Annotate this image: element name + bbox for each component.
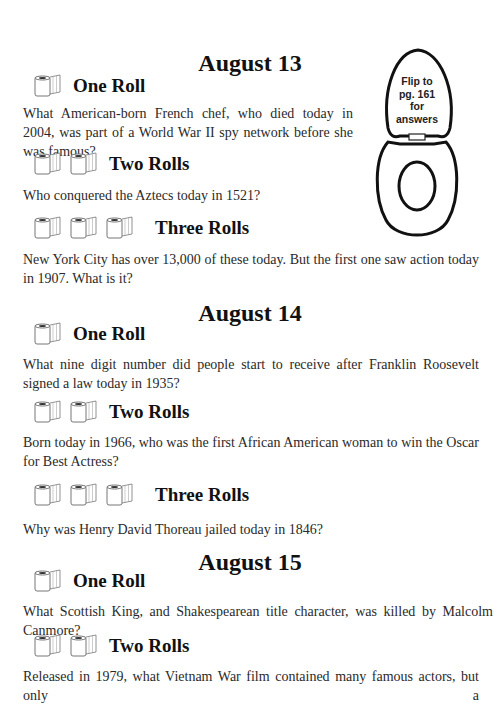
- answer-note-line: Flip to: [382, 75, 452, 88]
- toilet-paper-roll-icon: [69, 634, 99, 658]
- question-text: What nine digit number did people start …: [23, 355, 479, 393]
- level-header: Two Rolls: [33, 634, 189, 658]
- level-header: Three Rolls: [33, 483, 249, 507]
- level-header: One Roll: [33, 74, 145, 98]
- level-header: Two Rolls: [33, 152, 189, 176]
- toilet-paper-roll-icon: [105, 216, 135, 240]
- question-text: Why was Henry David Thoreau jailed today…: [23, 520, 479, 539]
- toilet-paper-roll-icon: [33, 152, 63, 176]
- answer-note-line: for: [382, 100, 452, 113]
- level-label: Two Rolls: [109, 635, 189, 657]
- level-label: Three Rolls: [155, 217, 249, 239]
- question-text: Who conquered the Aztecs today in 1521?: [23, 186, 353, 205]
- level-header: One Roll: [33, 322, 145, 346]
- toilet-paper-roll-icon: [69, 216, 99, 240]
- answer-note: Flip to pg. 161 for answers: [382, 75, 452, 125]
- level-label: Three Rolls: [155, 484, 249, 506]
- question-text: Born today in 1966, who was the first Af…: [23, 433, 479, 471]
- level-label: Two Rolls: [109, 153, 189, 175]
- toilet-paper-roll-icon: [33, 483, 63, 507]
- toilet-paper-roll-icon: [69, 483, 99, 507]
- toilet-paper-roll-icon: [33, 569, 63, 593]
- level-header: One Roll: [33, 569, 145, 593]
- answer-note-line: pg. 161: [382, 88, 452, 101]
- toilet-paper-roll-icon: [33, 400, 63, 424]
- level-label: One Roll: [73, 323, 145, 345]
- toilet-paper-roll-icon: [33, 216, 63, 240]
- toilet-paper-roll-icon: [105, 483, 135, 507]
- level-label: One Roll: [73, 570, 145, 592]
- toilet-paper-roll-icon: [33, 322, 63, 346]
- question-text: Released in 1979, what Vietnam War film …: [23, 667, 479, 705]
- level-label: Two Rolls: [109, 401, 189, 423]
- level-label: One Roll: [73, 75, 145, 97]
- toilet-paper-roll-icon: [69, 400, 99, 424]
- question-text: New York City has over 13,000 of these t…: [23, 250, 479, 288]
- toilet-paper-roll-icon: [33, 634, 63, 658]
- level-header: Two Rolls: [33, 400, 189, 424]
- level-header: Three Rolls: [33, 216, 249, 240]
- toilet-paper-roll-icon: [33, 74, 63, 98]
- toilet-paper-roll-icon: [69, 152, 99, 176]
- answer-note-line: answers: [382, 113, 452, 126]
